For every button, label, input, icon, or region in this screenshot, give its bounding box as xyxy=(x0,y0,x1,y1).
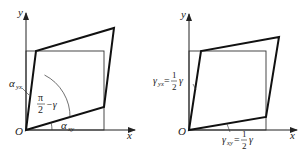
gamma-xy-leader xyxy=(227,124,230,132)
svg-text:xy: xy xyxy=(67,125,75,133)
svg-text:=: = xyxy=(234,134,240,145)
origin-label: O xyxy=(15,125,23,137)
svg-text:2: 2 xyxy=(38,104,43,115)
svg-text:yx: yx xyxy=(15,83,23,91)
alpha-yx-label: α yx xyxy=(9,77,23,91)
svg-text:=: = xyxy=(164,75,170,86)
svg-text:π: π xyxy=(38,92,43,103)
x-axis-label: x xyxy=(289,129,295,141)
svg-text:xy: xy xyxy=(226,139,233,146)
left-diagram: y x O α yx α xy π 2 −γ xyxy=(9,6,135,141)
svg-text:−γ: −γ xyxy=(46,99,58,110)
alpha-xy-label: α xy xyxy=(61,119,75,133)
origin-label: O xyxy=(178,125,186,137)
y-axis-label: y xyxy=(17,6,23,18)
shear-strain-diagram: y x O α yx α xy π 2 −γ y x O γ yx = xyxy=(0,0,306,164)
svg-text:1: 1 xyxy=(172,70,177,80)
svg-text:2: 2 xyxy=(172,82,177,92)
y-axis-label: y xyxy=(180,8,186,20)
svg-text:γ: γ xyxy=(179,75,184,86)
svg-text:γ: γ xyxy=(249,134,254,145)
gamma-yx-label: γ yx = 1 2 γ xyxy=(153,70,184,92)
svg-text:α: α xyxy=(61,119,67,131)
gamma-xy-label: γ xy = 1 2 γ xyxy=(222,129,254,151)
svg-text:yx: yx xyxy=(157,80,164,87)
angle-arc-xy xyxy=(51,123,52,131)
x-axis-label: x xyxy=(126,129,132,141)
svg-text:α: α xyxy=(9,77,15,89)
angle-arc-right xyxy=(45,75,71,118)
svg-text:2: 2 xyxy=(242,141,247,151)
right-diagram: y x O γ yx = 1 2 γ γ xy = 1 2 γ xyxy=(153,8,297,151)
svg-text:1: 1 xyxy=(242,129,247,139)
angle-pi-over-2-minus-gamma: π 2 −γ xyxy=(37,92,58,115)
